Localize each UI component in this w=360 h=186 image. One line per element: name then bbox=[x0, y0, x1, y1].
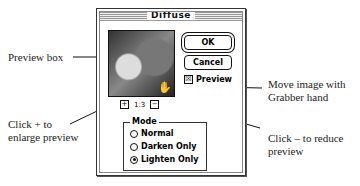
callout-click-plus: Click + to enlarge preview bbox=[8, 118, 78, 144]
callout-line: Grabber hand bbox=[268, 91, 346, 104]
callout-preview-box: Preview box bbox=[8, 51, 63, 64]
radio-darken-only[interactable]: Darken Only bbox=[130, 142, 196, 151]
cancel-button[interactable]: Cancel bbox=[184, 55, 232, 70]
callout-line: enlarge preview bbox=[8, 131, 78, 144]
radio-normal[interactable]: Normal bbox=[130, 129, 174, 138]
zoom-out-button[interactable]: − bbox=[150, 100, 159, 109]
radio-empty-icon bbox=[130, 130, 138, 138]
radio-lighten-only[interactable]: Lighten Only bbox=[130, 155, 198, 164]
preview-box[interactable]: ✋ bbox=[108, 30, 175, 97]
radio-label: Darken Only bbox=[141, 142, 196, 151]
radio-label: Normal bbox=[141, 129, 174, 138]
callout-line: Move image with bbox=[268, 78, 346, 91]
radio-selected-icon bbox=[130, 156, 138, 164]
radio-empty-icon bbox=[130, 143, 138, 151]
radio-label: Lighten Only bbox=[141, 155, 198, 164]
grabber-hand-icon: ✋ bbox=[158, 81, 172, 94]
mode-label: Mode bbox=[130, 117, 159, 126]
callout-click-minus: Click – to reduce preview bbox=[268, 132, 343, 158]
callout-grabber: Move image with Grabber hand bbox=[268, 78, 346, 104]
title-bar[interactable]: Diffuse bbox=[100, 12, 242, 21]
zoom-in-button[interactable]: + bbox=[120, 100, 129, 109]
callout-line: preview bbox=[268, 145, 343, 158]
diffuse-dialog: Diffuse ✋ OK Cancel ☒ Preview + 1:3 − Mo… bbox=[96, 8, 246, 176]
dialog-title: Diffuse bbox=[147, 10, 195, 20]
ok-button[interactable]: OK bbox=[184, 35, 232, 50]
callout-line: Click + to bbox=[8, 118, 78, 131]
zoom-controls: + 1:3 − bbox=[120, 100, 159, 109]
preview-checkbox-label: Preview bbox=[196, 75, 232, 84]
checkbox-checked-icon: ☒ bbox=[184, 75, 193, 84]
zoom-level: 1:3 bbox=[134, 101, 145, 109]
mode-group: Mode Normal Darken Only Lighten Only bbox=[123, 122, 207, 171]
preview-checkbox[interactable]: ☒ Preview bbox=[184, 75, 232, 84]
callout-line: Click – to reduce bbox=[268, 132, 343, 145]
